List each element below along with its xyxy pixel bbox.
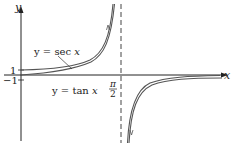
pi-over-two-label: π 2 — [109, 79, 117, 99]
tan-curve-right — [128, 76, 221, 144]
x-axis-label: x — [224, 69, 231, 82]
down-arrow — [130, 130, 133, 135]
tan-curve-left — [21, 4, 115, 75]
up-arrow — [107, 25, 110, 30]
sec-curve-left — [21, 4, 113, 70]
svg-text:π: π — [109, 79, 117, 89]
svg-text:2: 2 — [110, 89, 116, 99]
chart: y x 1 −1 y = sec x y = tan x π 2 — [0, 0, 233, 143]
sec-label: y = sec x — [33, 46, 80, 57]
tan-label: y = tan x — [51, 85, 98, 96]
y-axis-label: y — [14, 1, 22, 14]
tick-label-neg-one: −1 — [3, 75, 18, 86]
